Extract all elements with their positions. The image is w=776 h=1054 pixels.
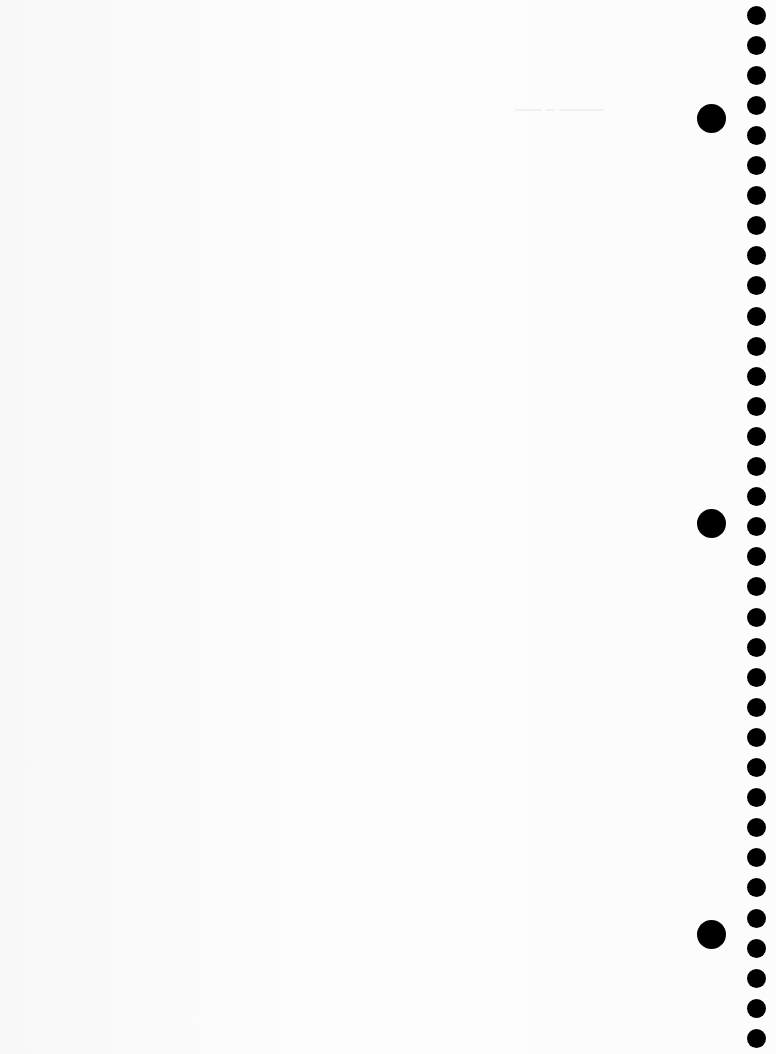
small-hole bbox=[747, 156, 766, 175]
small-hole bbox=[747, 698, 766, 717]
small-hole bbox=[747, 186, 766, 205]
small-hole bbox=[747, 728, 766, 747]
small-hole bbox=[747, 969, 766, 988]
small-hole bbox=[747, 337, 766, 356]
small-hole bbox=[747, 36, 766, 55]
small-hole bbox=[747, 818, 766, 837]
small-hole bbox=[747, 307, 766, 326]
large-hole bbox=[697, 509, 726, 538]
small-hole bbox=[747, 66, 766, 85]
small-hole bbox=[747, 758, 766, 777]
small-hole bbox=[747, 126, 766, 145]
small-hole bbox=[747, 668, 766, 687]
small-hole bbox=[747, 999, 766, 1018]
small-hole bbox=[747, 909, 766, 928]
large-hole bbox=[697, 920, 726, 949]
small-hole bbox=[747, 638, 766, 657]
small-hole bbox=[747, 216, 766, 235]
small-hole bbox=[747, 547, 766, 566]
large-hole bbox=[697, 104, 726, 133]
small-hole bbox=[747, 939, 766, 958]
notebook-paper bbox=[0, 0, 776, 1054]
bleed-through-text: ▁▁▁ ▁ ▁▁▁▁▁ bbox=[515, 98, 604, 111]
small-hole bbox=[747, 457, 766, 476]
small-hole bbox=[747, 246, 766, 265]
small-hole bbox=[747, 577, 766, 596]
small-hole bbox=[747, 608, 766, 627]
small-hole bbox=[747, 1029, 766, 1048]
small-hole bbox=[747, 517, 766, 536]
small-hole bbox=[747, 276, 766, 295]
small-hole bbox=[747, 878, 766, 897]
small-hole bbox=[747, 367, 766, 386]
small-hole bbox=[747, 788, 766, 807]
small-hole bbox=[747, 6, 766, 25]
small-hole bbox=[747, 96, 766, 115]
small-hole bbox=[747, 427, 766, 446]
small-hole bbox=[747, 397, 766, 416]
small-hole bbox=[747, 848, 766, 867]
small-hole bbox=[747, 487, 766, 506]
